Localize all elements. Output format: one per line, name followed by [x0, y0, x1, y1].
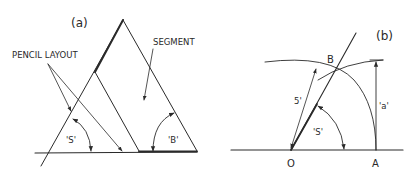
pencil-layout-label: PENCIL LAYOUT — [12, 50, 78, 60]
geometry-figure: (a) PENCIL LAYOUT SEGMENT 'S' 'B' (b) — [0, 0, 416, 178]
point-o-label: O — [287, 158, 295, 169]
figure-b: (b) 'a' 5' 'S' B O A — [231, 29, 403, 169]
pencil-leader-2 — [48, 64, 122, 151]
inner-parallel-line — [95, 72, 139, 151]
segment-leader — [144, 49, 153, 100]
point-a-label: A — [372, 158, 379, 169]
angle-s-label-b: 'S' — [313, 127, 323, 137]
left-edge-thick — [95, 20, 123, 72]
point-b-label: B — [327, 54, 334, 65]
angle-b-label: 'B' — [168, 135, 179, 145]
angle-s-label-a: 'S' — [66, 135, 76, 145]
dim-a-label: 'a' — [379, 101, 389, 111]
dim-5-label: 5' — [294, 96, 302, 106]
angle-b-arc — [153, 113, 174, 151]
figure-b-label: (b) — [376, 29, 393, 43]
figure-a: (a) PENCIL LAYOUT SEGMENT 'S' 'B' — [12, 16, 197, 166]
segment-label: SEGMENT — [153, 37, 195, 47]
figure-a-label: (a) — [71, 16, 88, 30]
